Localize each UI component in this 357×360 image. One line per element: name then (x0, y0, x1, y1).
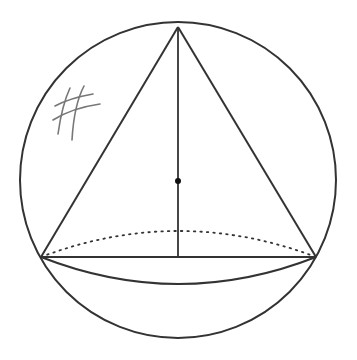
hatch-marks (53, 86, 100, 140)
diagram-canvas (0, 0, 357, 360)
cone-in-sphere-figure (0, 0, 357, 360)
cone-base-front-arc (41, 257, 316, 284)
cone-right-slant-edge (178, 27, 316, 257)
sphere-center-point (175, 178, 181, 184)
cone-left-slant-edge (41, 27, 178, 257)
